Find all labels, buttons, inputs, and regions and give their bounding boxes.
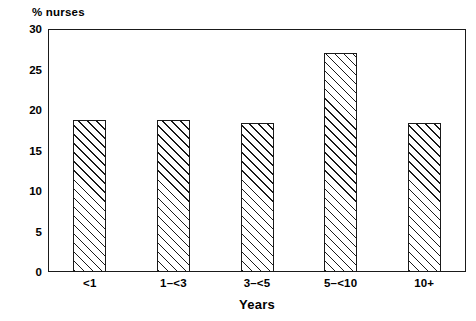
y-axis-tick-label: 0 bbox=[36, 266, 42, 278]
y-axis: 051015202530 bbox=[0, 0, 42, 321]
y-axis-tick-label: 25 bbox=[29, 64, 42, 76]
x-axis: <11–<33–<55–<1010+ bbox=[48, 277, 466, 297]
y-axis-tick-label: 30 bbox=[29, 23, 42, 35]
x-axis-tick-label: <1 bbox=[83, 277, 97, 289]
x-axis-tick-label: 3–<5 bbox=[244, 277, 271, 289]
x-axis-tick-label: 10+ bbox=[414, 277, 434, 289]
x-axis-tick-label: 5–<10 bbox=[324, 277, 357, 289]
bar bbox=[73, 120, 106, 272]
bar bbox=[241, 123, 274, 272]
x-axis-tick-label: 1–<3 bbox=[160, 277, 187, 289]
bar-chart: % nurses 051015202530 <11–<33–<55–<1010+… bbox=[0, 0, 476, 321]
y-axis-tick-label: 15 bbox=[29, 145, 42, 157]
bar bbox=[157, 120, 190, 272]
y-axis-tick-label: 20 bbox=[29, 104, 42, 116]
bars-group bbox=[48, 29, 466, 272]
y-axis-tick-label: 5 bbox=[36, 226, 42, 238]
x-axis-title: Years bbox=[48, 297, 466, 312]
y-axis-tick-label: 10 bbox=[29, 185, 42, 197]
bar bbox=[324, 53, 357, 272]
bar bbox=[408, 123, 441, 272]
